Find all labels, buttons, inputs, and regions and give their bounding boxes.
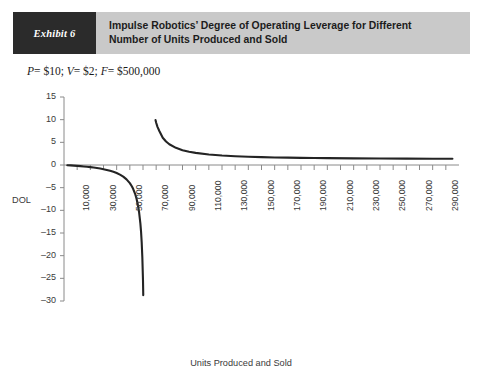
x-axis-tick-label: 290,000 [450,180,460,211]
chart-plot-area: 151050–5–10–15–20–25–30 10,00030,00050,0… [0,0,482,381]
x-axis-tick-label: 250,000 [397,180,407,211]
exhibit-figure: Exhibit 6 Impulse Robotics’ Degree of Op… [0,0,482,381]
chart-series-lines [67,120,452,295]
x-axis-tick-label: 170,000 [292,180,302,211]
y-axis-tick-label: –30 [30,295,56,305]
y-axis-tick-label: 0 [30,159,56,169]
series-line-0 [67,165,143,295]
y-axis-title: DOL [12,195,31,205]
x-axis-tick-label: 10,000 [81,185,91,211]
x-axis-tick-label: 150,000 [266,180,276,211]
x-axis-tick-label: 110,000 [213,181,223,211]
x-axis-tick-label: 50,000 [134,185,144,211]
x-axis-tick-label: 130,000 [239,180,249,211]
x-axis-tick-label: 210,000 [345,180,355,211]
x-axis-title: Units Produced and Sold [0,358,482,368]
y-axis-tick-label: –15 [30,227,56,237]
y-axis-tick-label: –5 [30,182,56,192]
x-axis-tick-label: 230,000 [371,180,381,211]
x-axis-tick-label: 270,000 [424,180,434,211]
y-axis-tick-label: 5 [30,136,56,146]
series-line-1 [156,120,453,159]
y-axis-tick-label: –20 [30,250,56,260]
y-axis-tick-label: 15 [30,91,56,101]
x-axis-tick-label: 90,000 [187,185,197,211]
x-axis-tick-label: 30,000 [108,185,118,211]
y-axis-tick-label: 10 [30,114,56,124]
y-axis-tick-label: –10 [30,204,56,214]
x-axis-tick-label: 190,000 [318,180,328,211]
y-axis-tick-label: –25 [30,272,56,282]
x-axis-tick-label: 70,000 [160,185,170,211]
